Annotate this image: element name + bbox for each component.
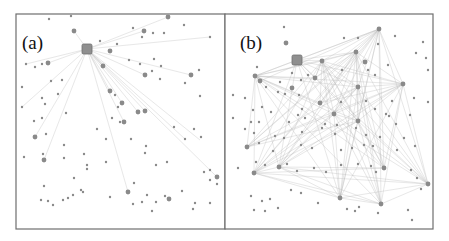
node xyxy=(244,128,246,130)
node xyxy=(155,201,157,203)
node-large xyxy=(108,89,113,94)
node xyxy=(321,127,323,129)
node xyxy=(133,182,135,184)
node-large xyxy=(108,49,113,54)
node xyxy=(45,133,47,135)
node xyxy=(145,145,147,147)
node xyxy=(288,121,290,123)
node xyxy=(427,101,429,103)
node xyxy=(274,135,276,137)
node xyxy=(144,152,146,154)
node-large xyxy=(33,135,38,140)
node xyxy=(357,163,359,165)
node xyxy=(264,210,266,212)
node xyxy=(307,74,309,76)
node xyxy=(311,147,313,149)
node xyxy=(70,15,72,17)
node-large xyxy=(426,182,431,187)
node xyxy=(301,131,303,133)
node xyxy=(82,191,84,193)
node-large xyxy=(363,60,368,65)
node xyxy=(52,204,54,206)
node xyxy=(128,59,130,61)
node xyxy=(63,157,65,159)
node xyxy=(340,149,342,151)
node-large xyxy=(120,101,125,106)
node xyxy=(114,94,116,96)
node-large xyxy=(318,101,323,106)
node xyxy=(300,79,302,81)
node xyxy=(394,35,396,37)
node-large xyxy=(215,175,220,180)
node-large xyxy=(167,197,172,202)
node xyxy=(80,189,82,191)
node-large xyxy=(46,61,51,66)
node xyxy=(365,134,367,136)
node xyxy=(164,195,166,197)
node-large xyxy=(332,112,337,117)
node xyxy=(385,113,387,115)
node xyxy=(354,210,356,212)
node xyxy=(86,164,88,166)
hub-node xyxy=(82,44,92,54)
node xyxy=(367,69,369,71)
node xyxy=(317,202,319,204)
node xyxy=(396,149,398,151)
node xyxy=(232,117,234,119)
node xyxy=(374,108,376,110)
node xyxy=(198,69,200,71)
node-large xyxy=(379,202,384,207)
node xyxy=(61,79,63,81)
node xyxy=(105,161,107,163)
node xyxy=(62,199,64,201)
node xyxy=(184,82,186,84)
node xyxy=(48,18,50,20)
panel-b-label: (b) xyxy=(240,32,262,54)
node xyxy=(25,63,27,65)
node xyxy=(324,123,326,125)
node xyxy=(258,121,260,123)
node xyxy=(409,114,411,116)
node xyxy=(425,57,427,59)
node-large xyxy=(126,190,131,195)
network-figure: (a) (b) xyxy=(0,0,449,241)
node-large xyxy=(320,59,325,64)
node xyxy=(203,171,205,173)
node-large xyxy=(401,82,406,87)
node-large xyxy=(290,86,295,91)
node xyxy=(255,161,257,163)
node xyxy=(277,207,279,209)
node-large xyxy=(277,165,282,170)
node xyxy=(41,63,43,65)
node xyxy=(388,115,390,117)
node-large xyxy=(189,73,194,78)
node xyxy=(336,124,338,126)
node xyxy=(414,145,416,147)
node xyxy=(365,100,367,102)
node xyxy=(155,164,157,166)
node-large xyxy=(42,158,47,163)
node xyxy=(256,66,258,68)
node xyxy=(413,97,415,99)
node xyxy=(357,37,359,39)
node-large xyxy=(338,196,343,201)
node xyxy=(50,80,52,82)
node xyxy=(146,194,148,196)
node xyxy=(277,91,279,93)
node xyxy=(375,171,377,173)
node xyxy=(279,81,281,83)
node xyxy=(416,177,418,179)
node xyxy=(163,32,165,34)
node xyxy=(298,94,300,96)
node xyxy=(391,100,393,102)
node xyxy=(407,209,409,211)
node xyxy=(377,212,379,214)
panel-a-label: (a) xyxy=(22,32,43,54)
node xyxy=(300,144,302,146)
node xyxy=(159,78,161,80)
node xyxy=(374,74,376,76)
node xyxy=(105,138,107,140)
node xyxy=(63,144,65,146)
node xyxy=(387,64,389,66)
node-large xyxy=(101,64,106,69)
